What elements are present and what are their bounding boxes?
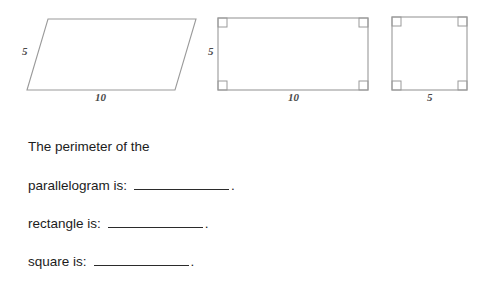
question-period-rectangle: . — [205, 217, 209, 231]
question-row-square: square is: . — [28, 254, 468, 292]
question-row-parallelogram: parallelogram is: . — [28, 178, 468, 216]
parallelogram-shape — [27, 19, 196, 90]
rectangle-shape — [218, 18, 368, 90]
figures-area: 5 10 5 10 5 — [0, 0, 490, 120]
figures-drawing — [0, 0, 490, 120]
parallelogram-base-label: 10 — [95, 92, 106, 103]
answer-blank-rectangle[interactable] — [108, 216, 203, 228]
answer-blank-square[interactable] — [94, 254, 189, 266]
question-row-rectangle: rectangle is: . — [28, 216, 468, 254]
question-label-square: square is: — [28, 255, 87, 269]
question-block: The perimeter of the parallelogram is: .… — [28, 140, 468, 292]
square-base-label: 5 — [427, 92, 433, 103]
question-label-parallelogram: parallelogram is: — [28, 179, 127, 193]
rectangle-side-label: 5 — [208, 46, 214, 57]
question-period-square: . — [191, 255, 195, 269]
prompt-intro-text: The perimeter of the — [28, 140, 150, 154]
parallelogram-side-label: 5 — [22, 46, 28, 57]
square-shape — [392, 17, 467, 90]
question-period-parallelogram: . — [231, 179, 235, 193]
question-label-rectangle: rectangle is: — [28, 217, 101, 231]
worksheet-page: 5 10 5 10 5 The perimeter of the paralle… — [0, 0, 490, 301]
rectangle-base-label: 10 — [288, 92, 299, 103]
prompt-intro-line: The perimeter of the — [28, 140, 468, 178]
answer-blank-parallelogram[interactable] — [134, 178, 229, 190]
